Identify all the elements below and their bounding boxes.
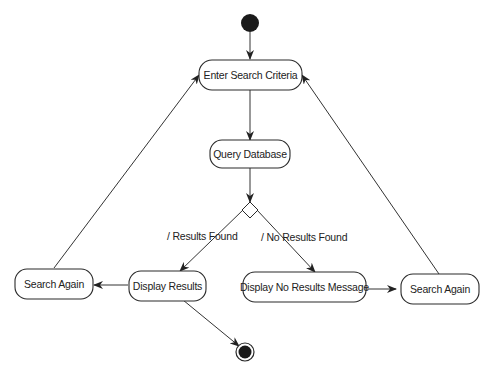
node-display-no-results-message: Display No Results Message — [240, 272, 369, 302]
node-enter-search-criteria: Enter Search Criteria — [199, 60, 302, 90]
node-query-database: Query Database — [210, 140, 290, 168]
node-display-results: Display Results — [129, 271, 206, 301]
node-search-again-left: Search Again — [15, 269, 93, 299]
node-label: Search Again — [24, 278, 84, 290]
edge-display-end — [183, 300, 239, 346]
guard-no-results-found: / No Results Found — [261, 231, 348, 243]
guard-results-found: / Results Found — [167, 230, 238, 242]
node-label: Query Database — [213, 148, 287, 160]
node-label: Display No Results Message — [240, 281, 369, 293]
edge-searchright-enter — [302, 75, 439, 274]
final-node — [236, 343, 254, 361]
node-search-again-right: Search Again — [401, 274, 479, 304]
decision-node — [242, 202, 258, 218]
node-label: Enter Search Criteria — [204, 69, 298, 81]
node-label: Display Results — [133, 280, 202, 292]
initial-node — [241, 14, 259, 32]
activity-diagram: Enter Search Criteria Query Database / R… — [0, 0, 495, 378]
node-label: Search Again — [410, 283, 470, 295]
